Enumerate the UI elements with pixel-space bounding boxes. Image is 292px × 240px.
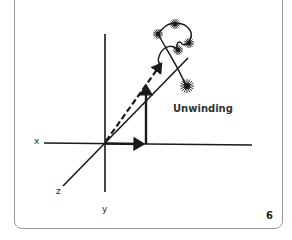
unwinding-label: Unwinding — [173, 104, 233, 114]
vector-diagram — [0, 0, 292, 240]
z-axis-label: z — [56, 187, 61, 196]
z-axis — [63, 58, 188, 186]
y-axis-label: y — [102, 205, 107, 214]
x-component-arrow — [105, 144, 143, 145]
dashed-resultant-arrow — [106, 64, 161, 141]
page-number: 6 — [266, 211, 273, 221]
x-axis — [44, 143, 252, 145]
unwinding-loop — [158, 23, 191, 86]
x-axis-label: x — [34, 137, 39, 146]
